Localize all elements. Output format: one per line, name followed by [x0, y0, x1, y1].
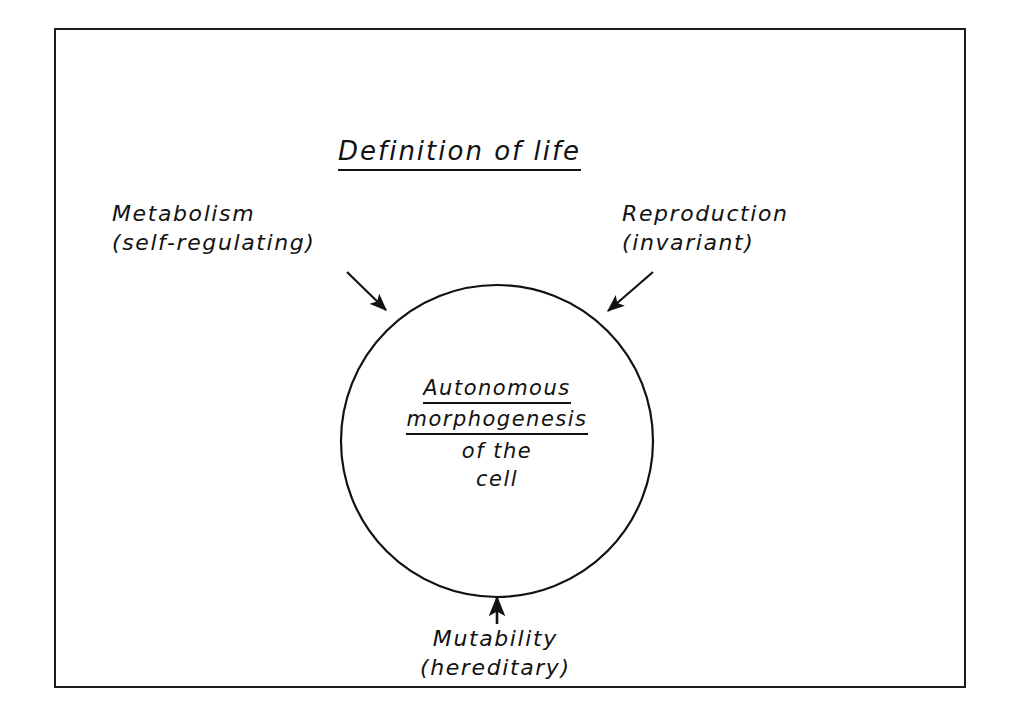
center-label-row-4: cell [347, 469, 647, 490]
diagram-canvas: Definition of life Metabolism (self-regu… [0, 0, 1012, 727]
callout-mutability: Mutability (hereditary) [420, 628, 571, 679]
circle-center-label: Autonomous morphogenesis of the cell [347, 378, 647, 490]
reproduction-arrow [608, 272, 653, 311]
callout-mutability-line2: (hereditary) [420, 657, 571, 679]
center-label-row-1: Autonomous [347, 378, 647, 404]
center-label-line-2: morphogenesis [406, 409, 587, 435]
center-label-line-1: Autonomous [423, 378, 570, 404]
callout-reproduction-line1: Reproduction [622, 203, 789, 225]
callout-metabolism: Metabolism (self-regulating) [112, 203, 316, 254]
metabolism-arrow [347, 272, 386, 310]
center-label-row-3: of the [347, 441, 647, 462]
callout-mutability-line1: Mutability [420, 628, 571, 650]
callout-metabolism-line1: Metabolism [112, 203, 316, 225]
diagram-vector-layer [0, 0, 1012, 727]
page-title: Definition of life [338, 138, 581, 171]
callout-reproduction: Reproduction (invariant) [622, 203, 789, 254]
center-label-row-2: morphogenesis [347, 409, 647, 435]
callout-reproduction-line2: (invariant) [622, 232, 789, 254]
callout-metabolism-line2: (self-regulating) [112, 232, 316, 254]
